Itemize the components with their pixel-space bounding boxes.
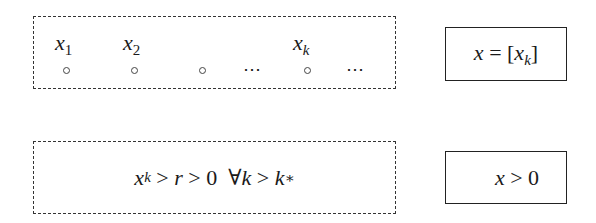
node-1 xyxy=(63,67,70,74)
ellipsis-1: ⋯ xyxy=(243,58,263,80)
result-formula: x > 0 xyxy=(473,139,539,217)
sequence-box xyxy=(33,16,396,89)
result-box: x > 0 xyxy=(445,151,567,204)
label-x1: x1 xyxy=(55,30,72,59)
node-k xyxy=(304,67,311,74)
label-x2: x2 xyxy=(123,30,140,59)
condition-box: xk > r > 0 ∀k > k∗ xyxy=(33,141,396,214)
limit-formula: x = [xk] xyxy=(474,40,538,69)
label-xk: xk xyxy=(293,30,309,59)
node-3 xyxy=(199,67,206,74)
node-2 xyxy=(131,67,138,74)
ellipsis-2: ⋯ xyxy=(346,58,366,80)
limit-box: x = [xk] xyxy=(445,27,567,81)
condition-formula: xk > r > 0 ∀k > k∗ xyxy=(34,142,395,213)
